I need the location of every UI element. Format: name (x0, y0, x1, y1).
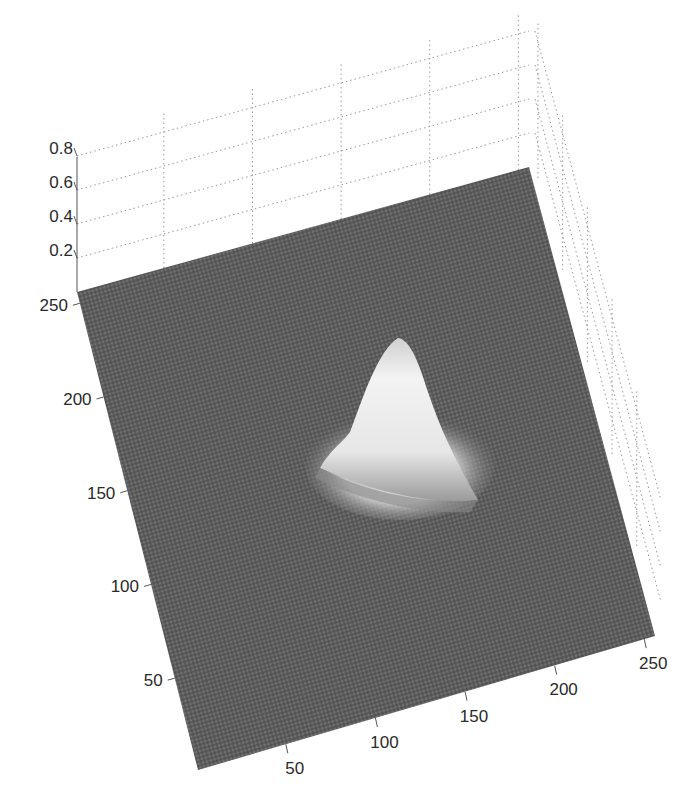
x-tick-label: 250 (639, 654, 667, 673)
y-tick-label: 50 (144, 671, 163, 690)
x-tick-label: 150 (460, 707, 488, 726)
x-tick-label: 50 (285, 759, 304, 778)
z-gridline (77, 65, 529, 190)
x-tick (375, 718, 377, 727)
x-tick (555, 665, 557, 674)
surface-plot: 0.20.40.60.85010015020025050100150200250 (0, 0, 700, 805)
x-tick-label: 200 (549, 680, 577, 699)
x-tick (644, 639, 646, 648)
z-tick (74, 148, 77, 156)
x-tick (465, 692, 467, 701)
y-tick (144, 584, 151, 586)
x-tick-label: 100 (370, 733, 398, 752)
z-tick-label: 0.6 (49, 173, 73, 192)
y-tick-label: 250 (39, 296, 67, 315)
y-tick-label: 100 (111, 577, 139, 596)
y-tick-label: 150 (87, 484, 115, 503)
z-tick-label: 0.2 (49, 241, 73, 260)
y-tick (73, 303, 80, 305)
x-tick (286, 744, 288, 753)
z-tick-label: 0.4 (49, 207, 73, 226)
y-tick (168, 678, 175, 680)
y-tick-label: 200 (63, 390, 91, 409)
y-tick (120, 491, 127, 493)
y-tick (97, 397, 104, 399)
z-tick-label: 0.8 (49, 139, 73, 158)
z-gridline (77, 31, 529, 156)
